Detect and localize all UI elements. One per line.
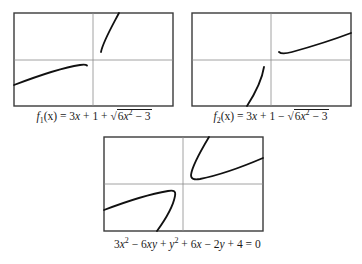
caption-f1: f1(x) = 3x + 1 + √6x2 − 3: [30, 109, 158, 123]
curve-upper-branch: [191, 137, 263, 179]
eq-text: = 3: [234, 110, 252, 122]
func-arg: (x): [221, 110, 234, 122]
var-xy: xy: [147, 238, 157, 250]
eq-text: + 1 −: [257, 110, 287, 122]
sqrt-expression: √6x2 − 3: [110, 109, 151, 123]
plot-frame: [14, 13, 173, 106]
plot-f1: [14, 13, 173, 106]
plot-frame: [192, 13, 351, 106]
eq-text: + 1 +: [80, 110, 110, 122]
plot-implicit: [104, 137, 263, 231]
eq-text: − 2: [202, 238, 220, 250]
eq-text: = 3: [57, 110, 75, 122]
curve-lower-branch: [104, 191, 175, 231]
curve-upper-branch: [101, 13, 119, 52]
caption-implicit: 3x2 − 6xy + y2 + 6x − 2y + 4 = 0: [114, 237, 254, 251]
sqrt-expression: √6x2 − 3: [287, 109, 328, 123]
func-arg: (x): [44, 110, 57, 122]
plots-canvas: [0, 0, 362, 264]
eq-text: + 6: [178, 238, 196, 250]
radicand-rest: − 3: [310, 110, 328, 122]
radicand: 6x2 − 3: [294, 109, 329, 122]
radicand-rest: − 3: [133, 110, 151, 122]
eq-text: + 4 = 0: [225, 238, 261, 250]
curve-lower-branch: [247, 67, 264, 106]
eq-text: +: [157, 238, 169, 250]
caption-f2: f2(x) = 3x + 1 − √6x2 − 3: [206, 109, 336, 123]
curve-upper-branch: [279, 33, 351, 54]
eq-text: − 6: [129, 238, 147, 250]
plot-f2: [192, 13, 351, 106]
radicand: 6x2 − 3: [117, 109, 152, 122]
curve-lower-branch: [14, 65, 87, 85]
